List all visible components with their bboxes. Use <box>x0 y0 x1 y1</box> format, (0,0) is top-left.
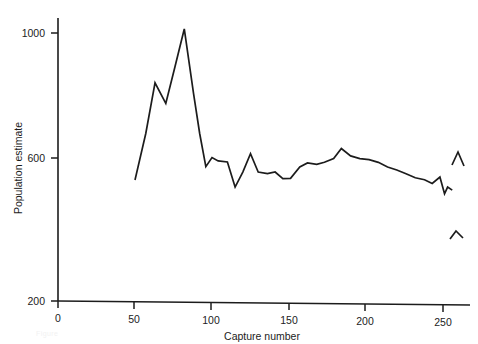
y-axis-title: Population estimate <box>12 122 24 214</box>
data-line-population-estimate <box>135 29 452 194</box>
x-tick-label-250: 250 <box>434 316 452 328</box>
x-tick-label-50: 50 <box>128 313 140 325</box>
y-tick-labels: 1000 600 200 <box>22 27 46 307</box>
x-tick-label-100: 100 <box>202 314 220 326</box>
figure-caption: Figure <box>36 330 58 337</box>
x-tick-label-0: 0 <box>55 312 61 324</box>
axes-group <box>51 18 470 312</box>
figure-container: 1000 600 200 0 50 100 150 200 250 Captur… <box>0 0 478 344</box>
artifact-marks-group <box>450 152 464 239</box>
x-tick-label-150: 150 <box>280 314 298 326</box>
population-estimate-line-chart: 1000 600 200 0 50 100 150 200 250 Captur… <box>0 0 478 344</box>
y-tick-label-200: 200 <box>27 295 45 307</box>
x-axis-line <box>58 301 470 305</box>
y-tick-label-600: 600 <box>27 152 45 164</box>
y-tick-label-1000: 1000 <box>22 27 46 39</box>
caret-lower <box>450 231 463 239</box>
data-series-group <box>135 29 452 194</box>
caret-upper <box>452 152 464 166</box>
x-axis-title: Capture number <box>224 330 300 342</box>
x-tick-labels: 0 50 100 150 200 250 <box>55 312 452 328</box>
x-tick-label-200: 200 <box>356 315 374 327</box>
